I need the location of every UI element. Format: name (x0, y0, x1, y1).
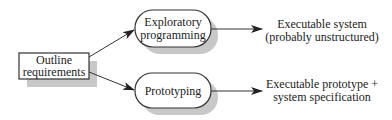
output-line2: system specification (273, 90, 371, 104)
node-prototyping: Prototyping (135, 73, 218, 115)
output-line1: Executable prototype + (266, 77, 378, 91)
output-exploratory-result: Executable system (probably unstructured… (265, 17, 379, 44)
edge-outline-to-exploratory (89, 30, 134, 57)
node-label-line2: requirements (23, 65, 86, 79)
node-outline-requirements: Outline requirements (19, 53, 97, 87)
node-label-line1: Prototyping (145, 84, 202, 98)
output-line1: Executable system (277, 17, 367, 31)
node-exploratory-programming: Exploratory programming (135, 10, 218, 54)
node-label-line2: programming (140, 28, 205, 42)
node-label-line1: Exploratory (144, 15, 201, 29)
diagram-svg: Outline requirements Exploratory program… (0, 0, 392, 120)
output-line2: (probably unstructured) (265, 30, 379, 44)
output-prototyping-result: Executable prototype + system specificat… (266, 77, 378, 104)
diagram-canvas: Outline requirements Exploratory program… (0, 0, 392, 120)
